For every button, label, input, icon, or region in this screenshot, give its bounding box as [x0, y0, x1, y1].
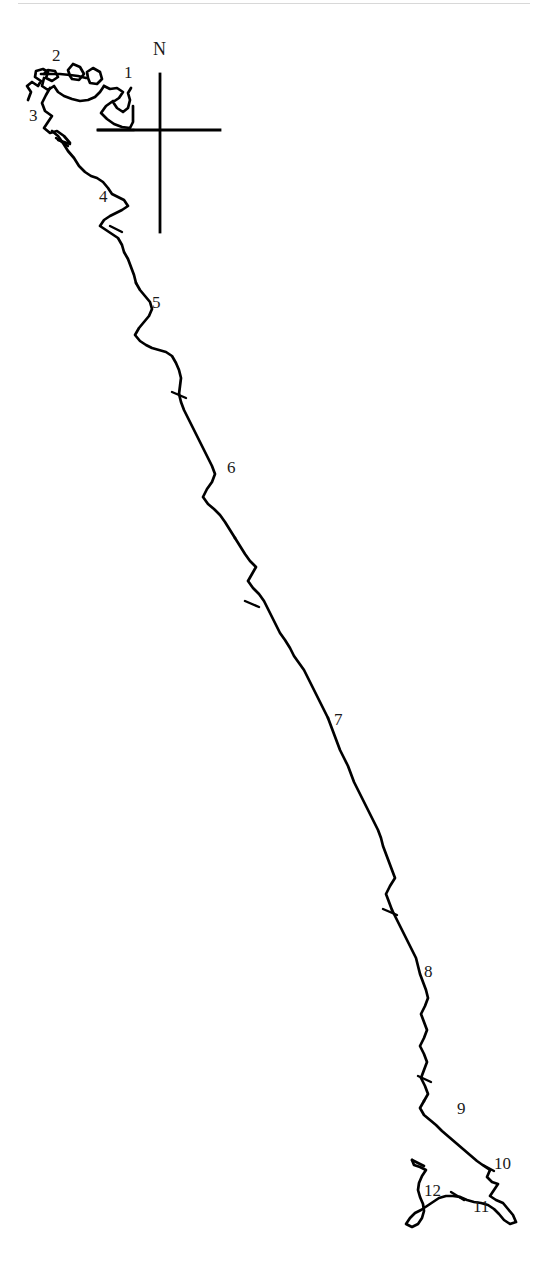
boundary-tick — [418, 1076, 431, 1082]
map-label-5: 5 — [152, 294, 161, 311]
coastline-segment-8-9 — [392, 910, 428, 1101]
compass-north-label: N — [153, 40, 166, 58]
coastline-segment-9-10 — [420, 1101, 490, 1170]
map-label-10: 10 — [494, 1155, 511, 1172]
map-label-2: 2 — [52, 47, 61, 64]
boundary-tick — [110, 226, 122, 232]
coastline-map-figure: N 1 2 3 4 5 6 7 8 9 10 11 12 — [0, 0, 542, 1262]
boundary-tick — [245, 601, 259, 607]
map-label-6: 6 — [227, 459, 236, 476]
compass-cross-group — [98, 74, 220, 232]
map-drawing — [0, 0, 542, 1262]
map-label-1: 1 — [124, 64, 133, 81]
coastline-segment-7-8 — [328, 718, 395, 910]
map-label-8: 8 — [424, 963, 433, 980]
coastline-segment-6-7 — [235, 538, 328, 718]
coastline-north-island-b — [87, 68, 102, 84]
coastline-north-island-a — [68, 64, 84, 80]
map-label-4: 4 — [99, 188, 108, 205]
coastline-group — [27, 64, 516, 1227]
coastline-bay-1 — [104, 86, 131, 112]
boundary-tick-group — [56, 138, 494, 1200]
map-label-3: 3 — [29, 107, 38, 124]
boundary-tick — [383, 909, 397, 915]
coastline-segment-3-4 — [52, 131, 136, 283]
map-label-9: 9 — [457, 1100, 466, 1117]
map-label-12: 12 — [424, 1182, 441, 1199]
map-label-11: 11 — [473, 1198, 489, 1215]
map-label-7: 7 — [334, 711, 343, 728]
